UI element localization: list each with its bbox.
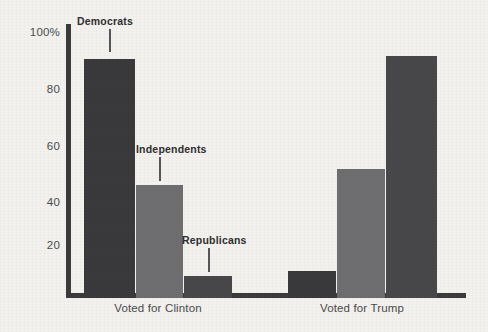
bar-clinton-democrats — [84, 59, 135, 298]
bar-chart: 100% 80 60 40 20 Voted for Clinton Voted… — [0, 0, 488, 332]
y-tick-label-100: 100% — [8, 26, 60, 38]
y-tick-label-40: 40 — [8, 196, 60, 208]
leader-line-independents — [159, 157, 161, 181]
y-tick-label-20: 20 — [8, 239, 60, 251]
leader-line-democrats — [109, 29, 111, 52]
bar-clinton-republicans — [184, 276, 232, 298]
annotation-independents: Independents — [136, 143, 207, 155]
plot-area: 100% 80 60 40 20 Voted for Clinton Voted… — [0, 0, 488, 332]
y-tick-label-60: 60 — [8, 140, 60, 152]
group-label-clinton: Voted for Clinton — [98, 302, 218, 314]
bar-clinton-independents — [136, 185, 183, 298]
y-axis-line — [66, 24, 71, 298]
annotation-republicans: Republicans — [182, 234, 247, 246]
bar-trump-independents — [337, 169, 385, 298]
bar-trump-republicans — [386, 56, 437, 298]
annotation-democrats: Democrats — [77, 15, 133, 27]
leader-line-republicans — [208, 248, 210, 272]
y-tick-label-80: 80 — [8, 83, 60, 95]
bar-trump-democrats — [288, 271, 336, 298]
group-label-trump: Voted for Trump — [302, 302, 422, 314]
